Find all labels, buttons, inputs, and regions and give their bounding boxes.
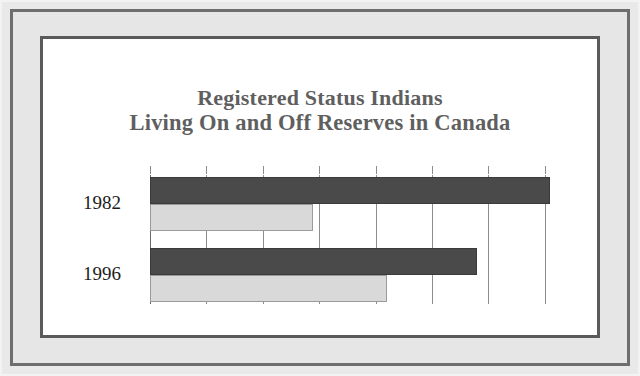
tick-mark-50% <box>432 166 433 174</box>
inner-frame-border: Registered Status Indians Living On and … <box>40 36 600 338</box>
tick-mark-40% <box>376 166 377 174</box>
plot-wrapper: 0%10%20%30%40%50%60%70%80%19821996 <box>76 69 564 304</box>
bar-1996-off-reserve[interactable] <box>150 275 387 302</box>
y-axis-category-label-1982: 1982 <box>83 192 121 214</box>
tick-mark-0% <box>150 166 151 174</box>
tick-mark-70% <box>545 166 546 174</box>
tick-mark-60% <box>488 166 489 174</box>
outer-frame-border: Registered Status Indians Living On and … <box>10 9 630 366</box>
chart-figure: Registered Status Indians Living On and … <box>76 69 564 304</box>
tick-mark-10% <box>206 166 207 174</box>
tick-mark-20% <box>263 166 264 174</box>
y-axis-category-label-1996: 1996 <box>83 263 121 285</box>
bar-1982-on-reserve[interactable] <box>150 177 550 204</box>
scanned-page-frame: Registered Status Indians Living On and … <box>0 0 640 376</box>
bar-1982-off-reserve[interactable] <box>150 204 313 231</box>
plot-area <box>150 175 564 304</box>
bar-1996-on-reserve[interactable] <box>150 248 477 275</box>
tick-mark-30% <box>319 166 320 174</box>
